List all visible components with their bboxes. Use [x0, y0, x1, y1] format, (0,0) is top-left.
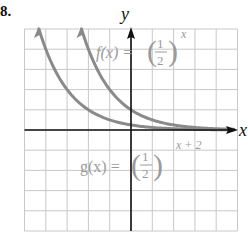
f-right-paren: )	[168, 34, 178, 68]
g-base-denominator: 2	[142, 166, 149, 181]
g-base-numerator: 1	[142, 149, 149, 164]
coordinate-graph: 8. y x f(x) = ( 1 2 ) x g(x) = ( 1 2 ) x…	[0, 0, 248, 246]
g-left-paren: (	[131, 148, 141, 182]
x-axis-label: x	[238, 120, 247, 140]
g-exponent: x + 2	[175, 138, 201, 152]
problem-number: 8.	[0, 3, 12, 19]
g-equation-label: g(x) = ( 1 2 ) x + 2	[80, 138, 201, 182]
f-exponent: x	[180, 27, 187, 41]
y-axis-label: y	[119, 4, 129, 24]
labels: 8. y x f(x) = ( 1 2 ) x g(x) = ( 1 2 ) x…	[0, 3, 247, 182]
f-base-numerator: 1	[157, 36, 164, 51]
f-base-denominator: 2	[157, 53, 164, 68]
f-label-lhs: f(x) =	[96, 44, 133, 62]
g-label-lhs: g(x) =	[80, 158, 120, 176]
g-right-paren: )	[153, 148, 163, 182]
function-curves	[34, 27, 234, 130]
f-left-paren: (	[147, 34, 157, 68]
